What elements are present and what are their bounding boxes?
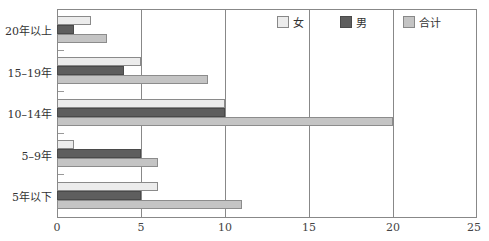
gridline-20	[393, 10, 394, 217]
category-label: 5年以下	[12, 188, 52, 204]
legend-swatch-female	[277, 16, 289, 28]
bar	[57, 117, 393, 126]
x-tick-label: 15	[302, 221, 316, 234]
bar	[57, 57, 141, 66]
bar	[57, 25, 74, 34]
category-tick	[58, 50, 64, 51]
legend-swatch-male	[340, 16, 352, 28]
bar-chart: 20年以上 15–19年 10–14年 5–9年 5年以下 0 5 10 15 …	[0, 0, 489, 241]
x-tick-label: 0	[54, 221, 61, 234]
legend-swatch-total	[403, 16, 415, 28]
category-label: 10–14年	[8, 105, 53, 121]
x-tick-label: 20	[386, 221, 400, 234]
category-label: 15–19年	[8, 64, 53, 80]
bar	[57, 75, 208, 84]
legend-male: 男	[340, 14, 367, 30]
legend-label: 合计	[419, 14, 441, 30]
bar	[57, 108, 225, 117]
x-tick-label: 25	[467, 221, 481, 234]
category-tick	[58, 91, 64, 92]
bar	[57, 99, 225, 108]
x-tick-label: 10	[218, 221, 232, 234]
bar	[57, 149, 141, 158]
legend-female: 女	[277, 14, 304, 30]
bar	[57, 34, 107, 43]
category-label: 20年以上	[5, 22, 52, 38]
legend-total: 合计	[403, 14, 441, 30]
legend-label: 女	[293, 14, 304, 30]
gridline-10	[225, 10, 226, 217]
bar	[57, 140, 74, 149]
gridline-15	[309, 10, 310, 217]
category-label: 5–9年	[22, 147, 53, 163]
bar	[57, 66, 124, 75]
x-tick-label: 5	[138, 221, 145, 234]
bar	[57, 191, 141, 200]
bar	[57, 200, 242, 209]
bar	[57, 158, 158, 167]
category-tick	[58, 133, 64, 134]
bar	[57, 16, 91, 25]
bar	[57, 182, 158, 191]
category-tick	[58, 174, 64, 175]
legend-label: 男	[356, 14, 367, 30]
